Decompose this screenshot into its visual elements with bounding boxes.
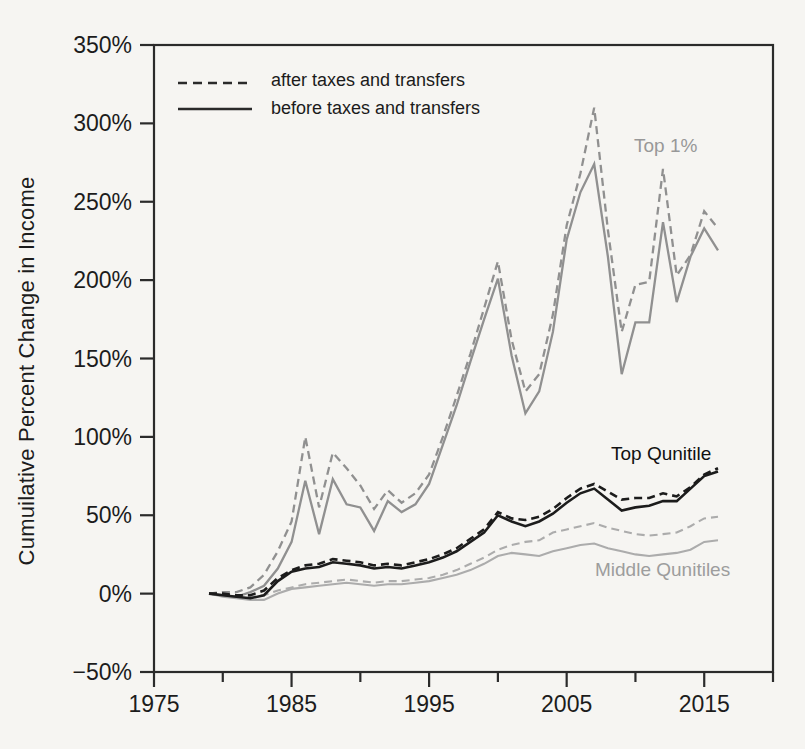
series-label-top-1-percent: Top 1% (634, 135, 697, 157)
y-tick-label: −50% (73, 659, 132, 685)
legend-item-before: before taxes and transfers (176, 98, 480, 119)
x-tick-label: 1975 (128, 691, 179, 717)
y-tick-label: 100% (73, 424, 132, 450)
x-tick-label: 1995 (404, 691, 455, 717)
income-growth-figure: 350%300%250%200%150%100%50%0%−50%1975198… (0, 0, 805, 749)
legend-before-label: before taxes and transfers (271, 98, 480, 119)
y-tick-label: 350% (73, 32, 132, 58)
series-label-top-quintile: Top Qunitile (611, 443, 711, 465)
y-axis-title: Cumuilative Percent Change in Income (14, 71, 42, 671)
legend-item-after: after taxes and transfers (176, 70, 480, 91)
series-label-middle-quintiles: Middle Qunitiles (595, 559, 730, 581)
y-tick-label: 0% (99, 581, 132, 607)
legend-dashed-line-sample (176, 71, 254, 91)
x-tick-label: 2015 (679, 691, 730, 717)
series-line-top1-solid (209, 164, 718, 597)
y-tick-label: 300% (73, 110, 132, 136)
series-line-middle-dashed (209, 517, 718, 597)
x-tick-label: 1985 (266, 691, 317, 717)
y-tick-label: 250% (73, 189, 132, 215)
legend: after taxes and transfers before taxes a… (176, 70, 480, 119)
y-tick-label: 50% (86, 502, 132, 528)
series-line-top1-dashed (209, 108, 718, 594)
y-tick-label: 150% (73, 346, 132, 372)
legend-solid-line-sample (176, 99, 254, 119)
x-tick-label: 2005 (541, 691, 592, 717)
y-tick-label: 200% (73, 267, 132, 293)
legend-after-label: after taxes and transfers (271, 70, 465, 91)
